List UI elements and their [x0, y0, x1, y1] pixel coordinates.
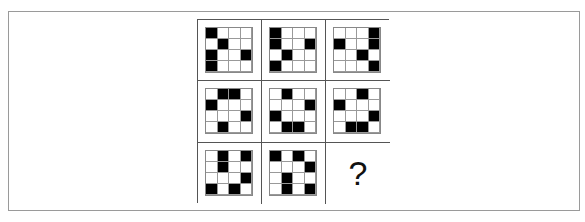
- empty-square: [346, 39, 358, 50]
- empty-square: [334, 111, 346, 122]
- empty-square: [241, 89, 253, 100]
- empty-square: [282, 39, 294, 50]
- empty-square: [282, 61, 294, 72]
- empty-square: [305, 111, 317, 122]
- filled-square: [334, 39, 346, 50]
- empty-square: [334, 61, 346, 72]
- empty-square: [357, 111, 369, 122]
- matrix-puzzle: ?: [197, 19, 389, 203]
- empty-square: [293, 162, 305, 173]
- empty-square: [229, 162, 241, 173]
- filled-square: [206, 100, 218, 111]
- puzzle-cell: [198, 81, 262, 142]
- empty-square: [241, 28, 253, 39]
- empty-square: [218, 61, 230, 72]
- empty-square: [369, 50, 381, 61]
- empty-square: [346, 100, 358, 111]
- empty-square: [293, 111, 305, 122]
- empty-square: [305, 50, 317, 61]
- empty-square: [334, 50, 346, 61]
- empty-square: [357, 61, 369, 72]
- filled-square: [241, 173, 253, 184]
- empty-square: [282, 162, 294, 173]
- empty-square: [270, 173, 282, 184]
- filled-square: [282, 184, 294, 195]
- puzzle-cell: [326, 20, 390, 81]
- empty-square: [241, 61, 253, 72]
- empty-square: [270, 89, 282, 100]
- empty-square: [282, 111, 294, 122]
- filled-square: [206, 61, 218, 72]
- filled-square: [206, 184, 218, 195]
- filled-square: [241, 111, 253, 122]
- filled-square: [270, 151, 282, 162]
- filled-square: [357, 89, 369, 100]
- filled-square: [369, 111, 381, 122]
- empty-square: [206, 111, 218, 122]
- filled-square: [270, 28, 282, 39]
- empty-square: [346, 61, 358, 72]
- empty-square: [218, 100, 230, 111]
- empty-square: [293, 89, 305, 100]
- empty-square: [334, 89, 346, 100]
- filled-square: [346, 122, 358, 133]
- empty-square: [346, 89, 358, 100]
- empty-square: [229, 39, 241, 50]
- empty-square: [229, 122, 241, 133]
- puzzle-cell: [326, 81, 390, 142]
- filled-square: [293, 122, 305, 133]
- pattern-grid: [333, 88, 381, 134]
- filled-square: [206, 50, 218, 61]
- filled-square: [305, 39, 317, 50]
- empty-square: [357, 39, 369, 50]
- empty-square: [293, 173, 305, 184]
- empty-square: [305, 28, 317, 39]
- empty-square: [206, 151, 218, 162]
- filled-square: [270, 111, 282, 122]
- empty-square: [229, 111, 241, 122]
- empty-square: [293, 61, 305, 72]
- empty-square: [369, 89, 381, 100]
- filled-square: [282, 50, 294, 61]
- empty-square: [229, 50, 241, 61]
- pattern-grid: [333, 27, 381, 73]
- answer-cell[interactable]: ?: [326, 143, 390, 204]
- puzzle-cell: [262, 81, 326, 142]
- empty-square: [270, 184, 282, 195]
- filled-square: [357, 50, 369, 61]
- filled-square: [241, 50, 253, 61]
- empty-square: [305, 89, 317, 100]
- empty-square: [229, 151, 241, 162]
- empty-square: [282, 100, 294, 111]
- filled-square: [229, 184, 241, 195]
- filled-square: [357, 122, 369, 133]
- pattern-grid: [269, 88, 317, 134]
- puzzle-cell: [262, 20, 326, 81]
- empty-square: [305, 151, 317, 162]
- empty-square: [241, 39, 253, 50]
- pattern-grid: [269, 27, 317, 73]
- pattern-grid: [205, 88, 253, 134]
- filled-square: [218, 122, 230, 133]
- filled-square: [282, 122, 294, 133]
- empty-square: [270, 162, 282, 173]
- filled-square: [305, 184, 317, 195]
- filled-square: [270, 61, 282, 72]
- filled-square: [369, 39, 381, 50]
- filled-square: [369, 61, 381, 72]
- empty-square: [218, 184, 230, 195]
- puzzle-cell: [198, 20, 262, 81]
- empty-square: [357, 28, 369, 39]
- puzzle-cell: [198, 143, 262, 204]
- empty-square: [270, 122, 282, 133]
- empty-square: [218, 173, 230, 184]
- empty-square: [293, 50, 305, 61]
- puzzle-cell: [262, 143, 326, 204]
- question-mark: ?: [326, 143, 390, 204]
- filled-square: [282, 89, 294, 100]
- filled-square: [218, 89, 230, 100]
- empty-square: [334, 28, 346, 39]
- empty-square: [229, 173, 241, 184]
- empty-square: [346, 50, 358, 61]
- empty-square: [305, 122, 317, 133]
